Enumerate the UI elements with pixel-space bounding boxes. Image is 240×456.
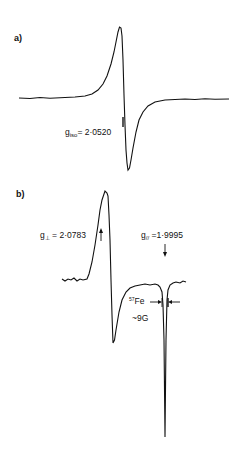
equals-sign: = [52,230,57,240]
element-symbol: Fe [135,296,145,306]
panel-b-label: b) [16,189,25,199]
spectrum-a-trace [19,27,229,170]
g-iso-annotation: giso= 2·0520 [65,127,111,138]
splitting-label: ~9G [132,313,148,323]
g-perp-arrow-head [99,228,103,233]
fe-isotope-label: 57Fe [129,296,144,306]
equals-sign: = [77,127,82,137]
g-par-arrow-head [163,252,167,257]
spectra-plot [0,0,240,456]
g-par-value: 1·9995 [156,230,182,240]
g-perp-annotation: g⊥ = 2·0783 [40,230,86,241]
panel-a-label: a) [14,33,22,43]
g-subscript: ⊥ [45,235,50,241]
g-subscript: // [146,235,149,241]
g-perp-value: 2·0783 [59,230,85,240]
spectrum-b-trace [62,191,186,437]
fe-arrow-left-head [158,300,162,304]
g-par-annotation: g// =1·9995 [141,230,183,241]
g-iso-value: 2·0520 [85,127,111,137]
